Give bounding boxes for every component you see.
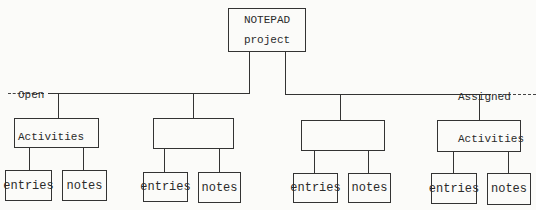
activity-4-notes-box: notes [487, 173, 531, 205]
activity-1-entries-box: entries [5, 170, 52, 201]
activity-2-notes-connector [219, 148, 220, 172]
entries-label: entries [3, 179, 53, 193]
entries-label: entries [429, 182, 479, 196]
activity-2-entries-box: entries [143, 172, 188, 202]
assigned-activities-label: Assigned Activities [458, 62, 524, 174]
notes-label: notes [491, 182, 527, 196]
root-left-connector [249, 51, 250, 94]
activity-2-notes-box: notes [198, 172, 241, 203]
activity-1-box [14, 118, 99, 148]
activity-4-notes-connector [508, 151, 509, 173]
activity-3-box [301, 120, 385, 151]
activity-1-notes-box: notes [62, 170, 107, 201]
activity-4-entries-box: entries [431, 173, 477, 204]
activity-3-entries-box: entries [293, 173, 338, 203]
activity-3-notes-connector [368, 150, 369, 173]
activity-1-connector [58, 93, 59, 118]
activity-1-notes-connector [83, 147, 84, 170]
open-label-line1: Open [18, 88, 84, 102]
activity-3-notes-box: notes [348, 173, 391, 203]
activity-3-connector [340, 94, 341, 120]
assigned-label-line1: Assigned [458, 90, 524, 104]
activity-3-entries-connector [314, 150, 315, 173]
activity-4-entries-connector [453, 151, 454, 173]
entries-label: entries [140, 180, 190, 194]
notes-label: notes [201, 181, 237, 195]
activity-2-box [153, 118, 234, 149]
activity-2-connector [193, 93, 194, 118]
root-title: NOTEPAD [229, 14, 305, 26]
root-notepad-project-box: NOTEPAD project [228, 8, 306, 52]
root-subtitle: project [229, 34, 305, 46]
open-activities-label: Open Activities [18, 60, 84, 172]
activity-4-connector [479, 94, 480, 120]
activity-4-box [437, 120, 521, 152]
notes-label: notes [351, 181, 387, 195]
root-right-connector [285, 51, 286, 95]
activity-2-entries-connector [164, 148, 165, 172]
entries-label: entries [290, 181, 340, 195]
notepad-structure-diagram: NOTEPAD project Open Activities Assigned… [0, 0, 536, 210]
activity-1-entries-connector [29, 147, 30, 170]
notes-label: notes [66, 179, 102, 193]
